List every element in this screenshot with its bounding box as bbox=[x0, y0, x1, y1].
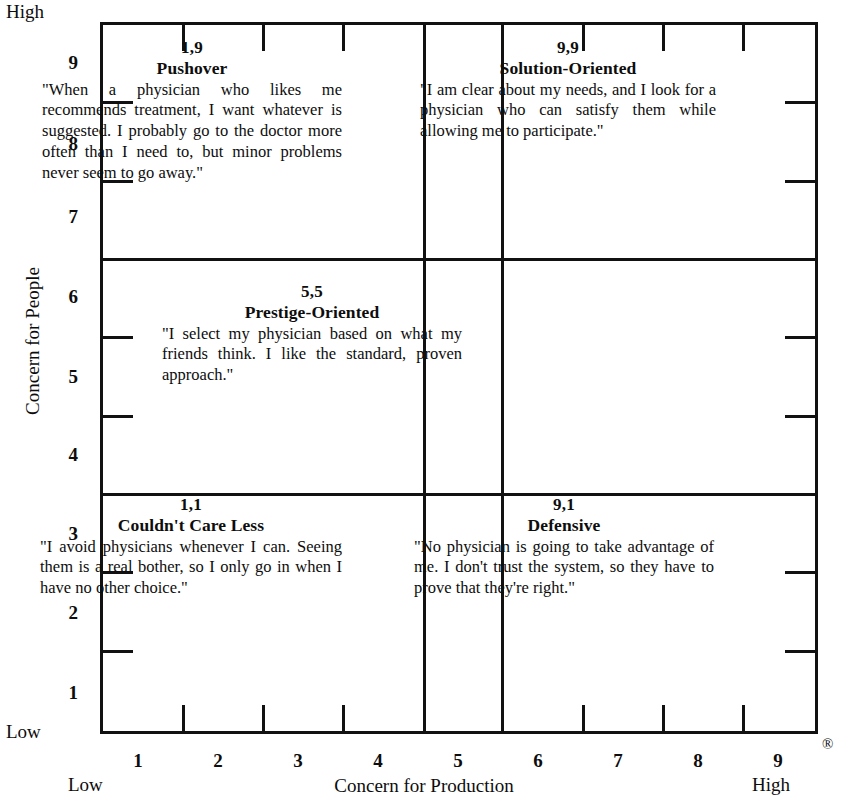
tick-bottom-1 bbox=[182, 705, 185, 731]
grid-cell-1-9: 1,9 Pushover "When a physician who likes… bbox=[42, 38, 342, 183]
y-tick-label-4: 4 bbox=[44, 444, 78, 466]
tick-top-8 bbox=[742, 25, 745, 51]
grid-cell-9-9-quote: "I am clear about my needs, and I look f… bbox=[420, 80, 716, 142]
y-tick-label-9: 9 bbox=[44, 52, 78, 74]
tick-right-3 bbox=[785, 571, 815, 574]
x-tick-label-9: 9 bbox=[758, 750, 798, 772]
tick-left-2 bbox=[103, 650, 133, 653]
x-tick-label-8: 8 bbox=[678, 750, 718, 772]
x-tick-label-7: 7 bbox=[598, 750, 638, 772]
x-axis-title: Concern for Production bbox=[0, 775, 848, 797]
tick-bottom-2 bbox=[262, 705, 265, 731]
y-axis-high-label: High bbox=[6, 2, 44, 21]
grid-cell-1-1-name: Couldn't Care Less bbox=[40, 515, 342, 536]
y-tick-label-6: 6 bbox=[44, 286, 78, 308]
y-tick-label-2: 2 bbox=[44, 602, 78, 624]
grid-cell-9-9: 9,9 Solution-Oriented "I am clear about … bbox=[420, 38, 716, 142]
y-tick-label-8: 8 bbox=[44, 133, 78, 155]
grid-cell-9-9-name: Solution-Oriented bbox=[420, 58, 716, 79]
tick-bottom-6 bbox=[582, 705, 585, 731]
x-tick-label-2: 2 bbox=[198, 750, 238, 772]
y-axis-title: Concern for People bbox=[22, 246, 44, 436]
grid-cell-5-5-quote: "I select my physician based on what my … bbox=[162, 324, 462, 386]
grid-cell-5-5-coord: 5,5 bbox=[162, 282, 462, 302]
x-tick-label-5: 5 bbox=[438, 750, 478, 772]
y-tick-label-1: 1 bbox=[44, 682, 78, 704]
y-tick-label-7: 7 bbox=[44, 206, 78, 228]
tick-left-5u bbox=[103, 336, 133, 339]
x-tick-label-1: 1 bbox=[118, 750, 158, 772]
tick-bottom-3 bbox=[342, 705, 345, 731]
grid-cell-1-9-coord: 1,9 bbox=[42, 38, 342, 58]
tick-right-5u bbox=[785, 336, 815, 339]
y-axis-low-label: Low bbox=[6, 722, 41, 741]
grid-cell-9-9-coord: 9,9 bbox=[420, 38, 716, 58]
grid-cell-1-1: 1,1 Couldn't Care Less "I avoid physicia… bbox=[40, 495, 342, 599]
tick-right-5l bbox=[785, 415, 815, 418]
x-tick-label-3: 3 bbox=[278, 750, 318, 772]
grid-cell-9-1: 9,1 Defensive "No physician is going to … bbox=[414, 495, 714, 599]
x-tick-label-6: 6 bbox=[518, 750, 558, 772]
x-tick-label-4: 4 bbox=[358, 750, 398, 772]
tick-left-5l bbox=[103, 415, 133, 418]
y-tick-label-5: 5 bbox=[44, 366, 78, 388]
y-tick-label-3: 3 bbox=[44, 523, 78, 545]
gridline-horizontal-upper-band bbox=[103, 258, 815, 261]
registered-trademark-mark: ® bbox=[822, 737, 833, 752]
grid-cell-5-5-name: Prestige-Oriented bbox=[162, 302, 462, 323]
grid-cell-9-1-quote: "No physician is going to take advantage… bbox=[414, 537, 714, 599]
tick-top-3 bbox=[342, 25, 345, 51]
tick-right-7 bbox=[785, 180, 815, 183]
grid-cell-1-9-quote: "When a physician who likes me recommend… bbox=[42, 80, 342, 184]
tick-bottom-8 bbox=[742, 705, 745, 731]
x-axis-high-label: High bbox=[752, 775, 790, 794]
tick-right-8 bbox=[785, 101, 815, 104]
grid-cell-1-1-quote: "I avoid physicians whenever I can. Seei… bbox=[40, 537, 342, 599]
grid-cell-1-1-coord: 1,1 bbox=[40, 495, 342, 515]
grid-cell-5-5: 5,5 Prestige-Oriented "I select my physi… bbox=[162, 282, 462, 386]
grid-cell-1-9-name: Pushover bbox=[42, 58, 342, 79]
tick-right-2 bbox=[785, 650, 815, 653]
tick-bottom-7 bbox=[662, 705, 665, 731]
grid-cell-9-1-coord: 9,1 bbox=[414, 495, 714, 515]
grid-cell-9-1-name: Defensive bbox=[414, 515, 714, 536]
